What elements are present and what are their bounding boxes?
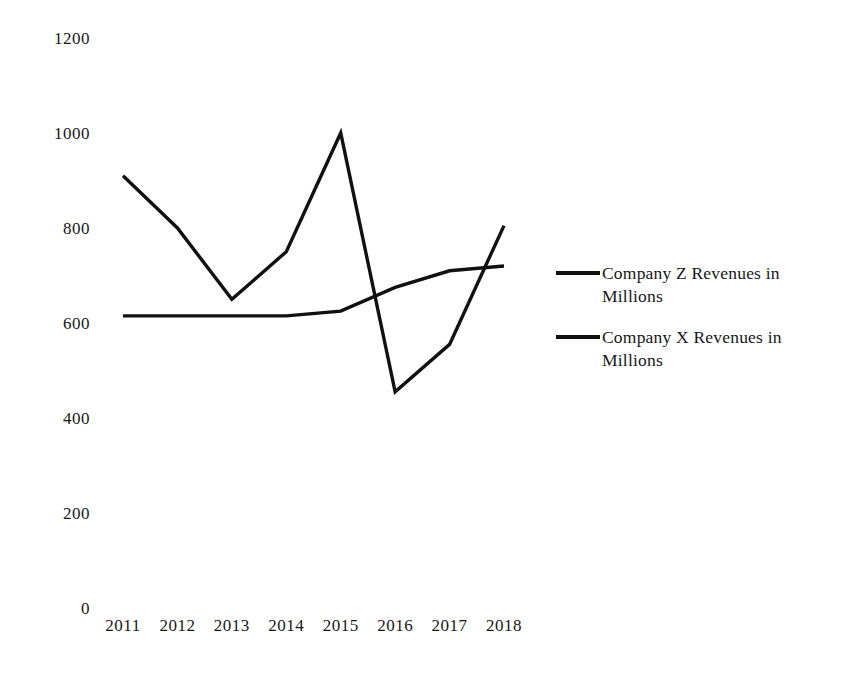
legend-item[interactable]: Company Z Revenues in Millions bbox=[556, 262, 836, 308]
chart-svg bbox=[0, 0, 560, 640]
legend-item[interactable]: Company X Revenues in Millions bbox=[556, 326, 836, 372]
legend-item-label: Company Z Revenues in Millions bbox=[602, 262, 820, 308]
x-axis-tick-label: 2013 bbox=[214, 617, 250, 634]
plot-area bbox=[0, 0, 560, 640]
series-line-company-z bbox=[123, 133, 504, 392]
legend-item-label: Company X Revenues in Millions bbox=[602, 326, 820, 372]
x-axis: 20112012201320142015201620172018 bbox=[96, 617, 536, 645]
x-axis-tick-label: 2018 bbox=[486, 617, 522, 634]
series-layer bbox=[123, 133, 504, 392]
x-axis-tick-label: 2016 bbox=[377, 617, 413, 634]
series-line-company-x bbox=[123, 266, 504, 316]
x-axis-tick-label: 2012 bbox=[159, 617, 195, 634]
x-axis-tick-label: 2011 bbox=[105, 617, 140, 634]
legend-line-swatch-icon bbox=[556, 335, 600, 339]
x-axis-tick-label: 2017 bbox=[432, 617, 468, 634]
legend-line-swatch-icon bbox=[556, 271, 600, 275]
chart-legend: Company Z Revenues in MillionsCompany X … bbox=[556, 262, 836, 390]
x-axis-tick-label: 2014 bbox=[268, 617, 304, 634]
x-axis-tick-label: 2015 bbox=[323, 617, 359, 634]
line-chart-figure: 020040060080010001200 201120122013201420… bbox=[0, 0, 847, 686]
